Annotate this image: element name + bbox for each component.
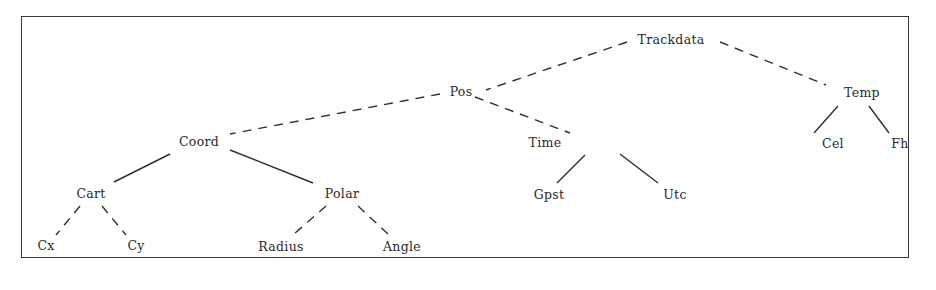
edge-coord-cart [114, 154, 170, 182]
node-cart: Cart [76, 188, 105, 201]
edge-trackdata-temp [720, 42, 826, 85]
edge-cart-cy [102, 206, 126, 235]
edge-polar-angle [358, 206, 389, 235]
edge-coord-polar [230, 150, 313, 183]
edge-pos-coord [230, 94, 440, 134]
node-gpst: Gpst [534, 189, 565, 202]
node-trackdata: Trackdata [638, 34, 705, 47]
edge-temp-fh [869, 106, 889, 133]
node-cel: Cel [822, 138, 844, 151]
node-utc: Utc [663, 189, 686, 202]
node-radius: Radius [258, 241, 303, 254]
edge-temp-cel [814, 106, 838, 133]
node-polar: Polar [325, 188, 359, 201]
node-temp: Temp [844, 87, 880, 100]
node-fh: Fh [891, 138, 908, 151]
node-angle: Angle [383, 241, 421, 254]
node-coord: Coord [179, 136, 219, 149]
node-cx: Cx [37, 240, 54, 253]
node-cy: Cy [127, 240, 144, 253]
node-pos: Pos [450, 86, 473, 99]
edge-cart-cx [56, 206, 80, 235]
edge-time-gpst [557, 155, 585, 183]
edge-time-utc [620, 154, 658, 183]
edge-polar-radius [293, 206, 326, 235]
edge-trackdata-pos [486, 42, 627, 90]
node-time: Time [529, 137, 562, 150]
edge-pos-time [475, 97, 570, 133]
